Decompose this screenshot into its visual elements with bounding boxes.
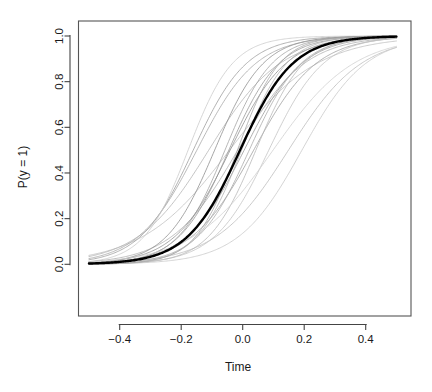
x-axis-tick-label: −0.4 [108, 333, 131, 345]
logistic-curves-chart: −0.4−0.20.00.20.4 0.00.20.40.60.81.0 Tim… [0, 0, 432, 392]
x-axis-tick-label: 0.2 [296, 333, 312, 345]
y-axis-tick-label: 1.0 [53, 28, 65, 44]
y-axis-tick-label: 0.2 [53, 211, 65, 227]
x-axis-tick-label: 0.4 [358, 333, 375, 345]
y-axis-tick-label: 0.0 [53, 256, 65, 272]
y-axis-title: P(y = 1) [16, 146, 30, 188]
x-axis-title: Time [225, 360, 252, 374]
y-axis-tick-label: 0.6 [53, 119, 65, 135]
x-axis-tick-label: −0.2 [170, 333, 193, 345]
figure-container: −0.4−0.20.00.20.4 0.00.20.40.60.81.0 Tim… [0, 0, 432, 392]
y-axis-tick-label: 0.4 [53, 164, 65, 181]
y-axis-tick-label: 0.8 [53, 74, 65, 90]
x-axis-tick-label: 0.0 [235, 333, 251, 345]
